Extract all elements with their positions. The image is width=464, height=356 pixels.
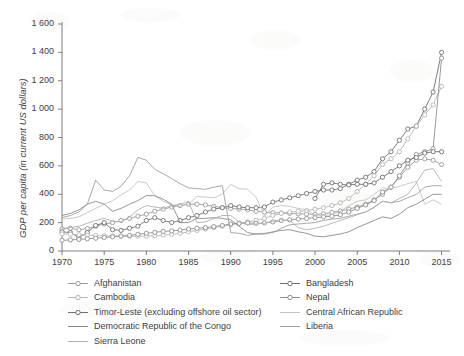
legend-item[interactable]: Central African Republic: [280, 305, 464, 320]
series-line: [62, 58, 442, 240]
data-point-marker: [355, 206, 359, 210]
data-point-marker: [195, 226, 199, 230]
data-point-marker: [153, 209, 157, 213]
legend-column-right: BangladeshNepalCentral African RepublicL…: [280, 276, 464, 334]
data-point-marker: [431, 103, 435, 107]
legend-item[interactable]: Afghanistan: [68, 276, 298, 291]
data-point-marker: [296, 194, 300, 198]
x-tick-label: 1975: [84, 257, 124, 267]
data-point-marker: [380, 162, 384, 166]
data-point-marker: [305, 191, 309, 195]
data-point-marker: [364, 182, 368, 186]
x-tick-label: 1985: [169, 257, 209, 267]
series-line: [62, 86, 442, 236]
data-point-marker: [186, 227, 190, 231]
data-point-marker: [397, 174, 401, 178]
data-point-marker: [246, 206, 250, 210]
data-point-marker: [161, 218, 165, 222]
data-point-marker: [440, 150, 444, 154]
data-point-marker: [136, 232, 140, 236]
data-point-marker: [288, 196, 292, 200]
series-cambodia: [60, 84, 444, 238]
data-point-marker: [127, 233, 131, 237]
data-point-marker: [423, 107, 427, 111]
x-tick-label: 1970: [42, 257, 82, 267]
y-tick-label: 600: [14, 160, 54, 170]
data-point-marker: [330, 188, 334, 192]
legend-item[interactable]: Democratic Republic of the Congo: [68, 320, 298, 335]
data-point-marker: [85, 237, 89, 241]
data-point-marker: [111, 235, 115, 239]
y-tick-label: 200: [14, 217, 54, 227]
data-point-marker: [414, 124, 418, 128]
data-point-marker: [313, 216, 317, 220]
data-point-marker: [338, 182, 342, 186]
data-point-marker: [94, 223, 98, 227]
x-tick-label: 1990: [211, 257, 251, 267]
data-point-marker: [170, 229, 174, 233]
data-point-marker: [397, 164, 401, 168]
data-point-marker: [68, 232, 72, 236]
data-point-marker: [296, 217, 300, 221]
legend-item[interactable]: Nepal: [280, 291, 464, 306]
y-tick-label: 400: [14, 188, 54, 198]
data-point-marker: [338, 201, 342, 205]
legend-item[interactable]: Cambodia: [68, 291, 298, 306]
legend-item-label: Sierra Leone: [94, 336, 146, 347]
series-bangladesh: [60, 50, 444, 239]
data-point-marker: [102, 235, 106, 239]
data-point-marker: [136, 224, 140, 228]
series-nepal: [60, 56, 444, 243]
data-point-marker: [338, 187, 342, 191]
data-point-marker: [111, 228, 115, 232]
legend-swatch-icon: [280, 278, 300, 289]
legend-swatch-icon: [280, 307, 300, 318]
data-point-marker: [440, 84, 444, 88]
data-point-marker: [305, 216, 309, 220]
x-tick-label: 2005: [337, 257, 377, 267]
legend-item[interactable]: Bangladesh: [280, 276, 464, 291]
data-point-marker: [271, 213, 275, 217]
data-point-marker: [77, 233, 81, 237]
data-point-marker: [347, 210, 351, 214]
data-point-marker: [372, 181, 376, 185]
gdp-per-capita-line-chart: GDP per capita (in current US dollars) A…: [0, 0, 464, 356]
legend-item-label: Central African Republic: [306, 307, 403, 318]
data-point-marker: [119, 228, 123, 232]
legend-item-label: Afghanistan: [94, 278, 142, 289]
legend-item-label: Democratic Republic of the Congo: [94, 321, 231, 332]
data-point-marker: [262, 216, 266, 220]
data-point-marker: [414, 155, 418, 159]
legend-item-label: Cambodia: [94, 292, 135, 303]
data-point-marker: [440, 162, 444, 166]
data-point-marker: [372, 199, 376, 203]
data-point-marker: [380, 157, 384, 161]
data-point-marker: [68, 226, 72, 230]
legend-item[interactable]: Sierra Leone: [68, 334, 298, 349]
data-point-marker: [203, 226, 207, 230]
data-point-marker: [271, 200, 275, 204]
legend-item-label: Timor-Leste (excluding offshore oil sect…: [94, 307, 262, 318]
data-point-marker: [389, 170, 393, 174]
legend-item-label: Nepal: [306, 292, 330, 303]
data-point-marker: [347, 196, 351, 200]
data-point-marker: [144, 231, 148, 235]
data-point-marker: [313, 207, 317, 211]
legend-item[interactable]: Timor-Leste (excluding offshore oil sect…: [68, 305, 298, 320]
data-point-marker: [423, 157, 427, 161]
data-point-marker: [102, 221, 106, 225]
data-point-marker: [431, 150, 435, 154]
data-point-marker: [203, 203, 207, 207]
data-point-marker: [288, 210, 292, 214]
data-point-marker: [60, 238, 64, 242]
legend-marker: [76, 310, 80, 314]
data-point-marker: [321, 206, 325, 210]
data-point-marker: [212, 207, 216, 211]
legend-item[interactable]: Liberia: [280, 320, 464, 335]
data-point-marker: [153, 230, 157, 234]
data-point-marker: [372, 174, 376, 178]
data-point-marker: [254, 221, 258, 225]
legend-marker: [288, 281, 292, 285]
data-point-marker: [254, 206, 258, 210]
data-point-marker: [212, 225, 216, 229]
